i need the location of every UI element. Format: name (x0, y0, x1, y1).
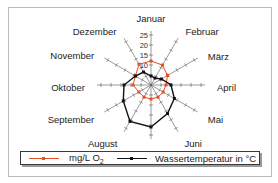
legend-item-temp: Wassertemperatur in °C (117, 152, 256, 164)
data-point (150, 75, 153, 78)
data-point (137, 91, 140, 94)
data-point (138, 63, 141, 66)
data-point (166, 74, 169, 77)
legend-o2-label: mg/L O2 (69, 152, 104, 165)
data-point (123, 84, 126, 87)
data-point (154, 77, 157, 80)
data-point (150, 98, 153, 101)
legend-item-o2: mg/L O2 (29, 152, 104, 164)
legend-temp-label: Wassertemperatur in °C (155, 153, 256, 164)
legend-temp-swatch (117, 158, 147, 159)
data-point (173, 97, 176, 100)
data-point (134, 75, 137, 78)
category-label-8: September (48, 114, 94, 125)
legend: mg/L O2 Wassertemperatur in °C (20, 151, 260, 165)
data-point (142, 71, 145, 74)
category-label-5: Juni (185, 138, 202, 149)
data-point (161, 64, 164, 67)
data-point (143, 96, 146, 99)
data-point (132, 84, 135, 87)
data-point (165, 84, 168, 87)
category-label-0: Januar (136, 13, 165, 24)
radial-tick-label: 20 (140, 41, 148, 50)
category-label-1: Februar (186, 26, 219, 37)
data-point (162, 91, 165, 94)
data-point (160, 78, 163, 81)
legend-o2-swatch (29, 158, 59, 159)
data-point (150, 126, 153, 129)
category-label-7: August (88, 138, 118, 149)
data-point (129, 120, 132, 123)
category-label-11: Dezember (73, 26, 117, 37)
data-point (166, 112, 169, 115)
radar-axis (151, 58, 198, 85)
data-point (122, 100, 125, 103)
data-point (170, 84, 173, 87)
radial-tick-label: 15 (140, 51, 148, 60)
category-label-3: April (217, 82, 236, 93)
category-label-4: Mai (208, 114, 223, 125)
radial-tick-label: 25 (140, 31, 148, 40)
category-label-10: November (50, 50, 94, 61)
category-label-2: März (208, 51, 229, 62)
data-point (157, 96, 160, 99)
data-point (150, 60, 153, 63)
category-label-9: Oktober (51, 82, 85, 93)
